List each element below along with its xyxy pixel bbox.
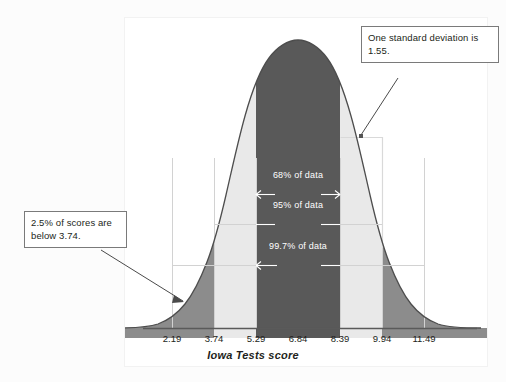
x-tick-label-7: 11.49: [404, 333, 444, 344]
annotation-label-997: 99.7% of data: [238, 241, 358, 251]
annotation-label-68: 68% of data: [238, 170, 358, 180]
x-axis-title: Iowa Tests score: [0, 349, 506, 361]
callout-std-deviation: One standard deviation is 1.55.: [361, 26, 499, 63]
x-tick-label-5: 8.39: [320, 333, 360, 344]
x-tick-label-4: 6.84: [278, 333, 318, 344]
annotation-label-95: 95% of data: [238, 200, 358, 210]
callout-percent-below: 2.5% of scores are below 3.74.: [24, 211, 127, 248]
x-tick-label-3: 5.29: [236, 333, 276, 344]
x-tick-label-6: 9.94: [362, 333, 402, 344]
x-tick-label-2: 3.74: [194, 333, 234, 344]
leader-line-percent-below: [101, 250, 184, 303]
leader-line-std-dev: [361, 78, 398, 135]
figure-root: 2.19 3.74 5.29 6.84 8.39 9.94 11.49 68% …: [0, 0, 506, 382]
x-tick-label-1: 2.19: [152, 333, 192, 344]
